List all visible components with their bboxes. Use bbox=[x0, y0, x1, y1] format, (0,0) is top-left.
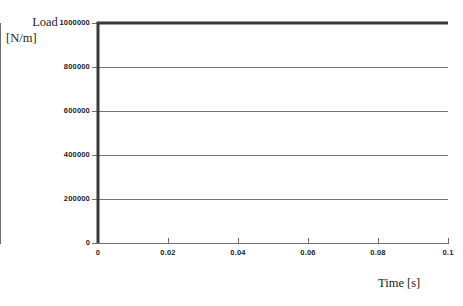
chart-figure: Load [N/m] 02000004000006000008000001000… bbox=[0, 0, 463, 306]
x-axis-title: Time [s] bbox=[378, 276, 420, 291]
data-series-line bbox=[98, 23, 448, 243]
data-series-layer bbox=[0, 0, 463, 306]
